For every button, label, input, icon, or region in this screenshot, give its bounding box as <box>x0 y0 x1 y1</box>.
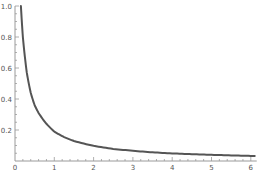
y-tick-label: 0.2 <box>1 127 12 135</box>
y-tick-label: 1.0 <box>1 3 12 11</box>
x-axis: 0123456 <box>13 157 257 172</box>
x-tick-label: 6 <box>249 164 254 172</box>
y-axis: 0.20.40.60.81.0 <box>1 3 19 162</box>
y-tick-label: 0.6 <box>1 65 13 73</box>
curve-line <box>21 6 255 156</box>
data-series <box>21 6 255 156</box>
x-tick-label: 4 <box>170 164 175 172</box>
line-chart: 0.20.40.60.81.0 0123456 <box>0 0 258 183</box>
x-tick-label: 1 <box>52 164 56 172</box>
y-tick-label: 0.4 <box>1 96 13 104</box>
x-tick-label: 5 <box>209 164 213 172</box>
x-tick-label: 0 <box>13 164 17 172</box>
x-tick-label: 3 <box>131 164 135 172</box>
x-tick-label: 2 <box>91 164 95 172</box>
y-tick-label: 0.8 <box>1 34 12 42</box>
